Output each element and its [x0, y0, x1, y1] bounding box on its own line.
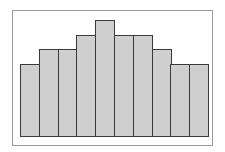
bar-8 — [152, 49, 172, 137]
bar-6 — [114, 35, 134, 137]
bar-1 — [20, 64, 40, 137]
bar-9 — [170, 64, 190, 137]
bar-3 — [58, 49, 78, 137]
bar-10 — [189, 64, 209, 137]
bar-7 — [133, 35, 153, 137]
bar-2 — [39, 49, 59, 137]
bar-chart-plot-area — [20, 10, 208, 138]
bar-5 — [95, 20, 115, 137]
bar-4 — [76, 35, 96, 137]
